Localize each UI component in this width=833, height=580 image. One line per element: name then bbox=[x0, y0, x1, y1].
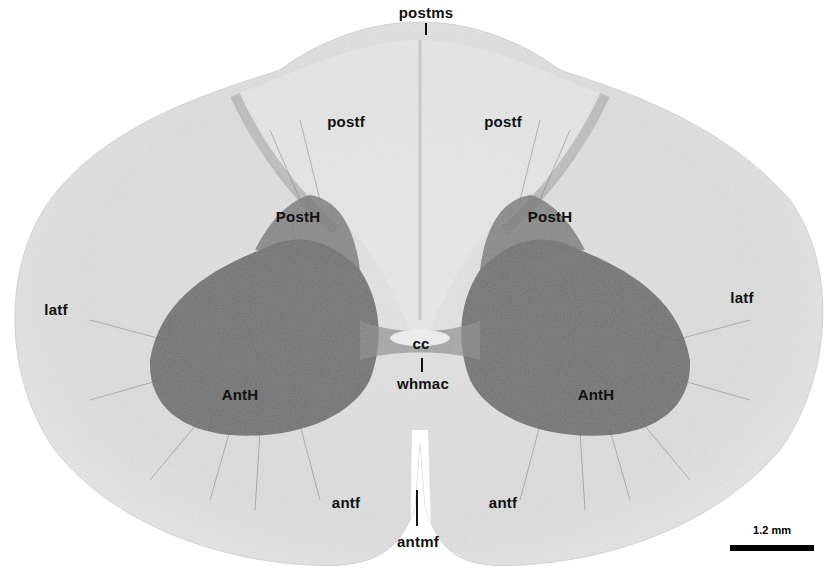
pointer-line-whmac bbox=[421, 358, 423, 372]
label-postf-left: postf bbox=[327, 113, 365, 130]
scale-bar-label: 1.2 mm bbox=[753, 524, 791, 536]
pointer-line-antmf bbox=[416, 490, 418, 526]
label-posth-left: PostH bbox=[276, 208, 320, 225]
label-cc: cc bbox=[412, 335, 429, 352]
label-anth-right: AntH bbox=[578, 386, 615, 403]
spinal-cord-figure: postms postf postf PostH PostH latf latf… bbox=[0, 0, 833, 580]
label-whmac: whmac bbox=[397, 375, 449, 392]
label-postf-right: postf bbox=[484, 113, 522, 130]
label-anth-left: AntH bbox=[222, 386, 259, 403]
label-antmf: antmf bbox=[397, 533, 439, 550]
label-posth-right: PostH bbox=[528, 208, 572, 225]
label-postms: postms bbox=[399, 4, 454, 21]
scale-bar bbox=[730, 545, 814, 551]
pointer-line-postms bbox=[425, 23, 427, 35]
label-latf-right: latf bbox=[730, 289, 753, 306]
label-latf-left: latf bbox=[44, 301, 67, 318]
label-antf-left: antf bbox=[332, 494, 360, 511]
label-antf-right: antf bbox=[489, 494, 517, 511]
